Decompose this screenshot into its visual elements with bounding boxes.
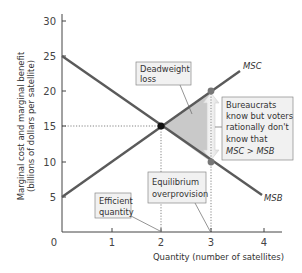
equilibrium-overprovision-callout: Equilibrium overprovision	[148, 172, 208, 203]
svg-text:15: 15	[43, 121, 56, 132]
y-tick-labels: 30 25 20 15 10 5	[43, 16, 56, 203]
msb-label: MSB	[264, 193, 283, 203]
y-ticks	[62, 21, 66, 197]
svg-text:10: 10	[43, 157, 56, 168]
svg-text:(billions of dollars per satel: (billions of dollars per satellite)	[26, 60, 36, 192]
deadweight-loss-area	[161, 91, 211, 162]
svg-text:2: 2	[158, 237, 164, 248]
x-ticks	[112, 228, 264, 232]
svg-text:overprovision: overprovision	[152, 189, 208, 199]
svg-text:Equilibrium: Equilibrium	[152, 177, 199, 187]
x-axis-title: Quantity (number of satellites)	[153, 252, 284, 262]
svg-text:Bureaucrats: Bureaucrats	[226, 100, 276, 110]
msc-point-q3	[208, 88, 215, 95]
svg-text:Marginal cost and marginal ben: Marginal cost and marginal benefit	[16, 51, 26, 200]
efficient-leader	[131, 216, 160, 231]
svg-text:25: 25	[43, 51, 56, 62]
svg-text:20: 20	[43, 86, 56, 97]
svg-text:4: 4	[261, 237, 267, 248]
msc-label: MSC	[243, 61, 262, 71]
svg-text:0: 0	[51, 237, 57, 248]
efficient-quantity-callout: Efficient quantity	[95, 193, 134, 218]
svg-text:rationally don't: rationally don't	[226, 122, 290, 132]
chart-canvas: Marginal cost and marginal benefit (bill…	[0, 0, 302, 273]
svg-text:3: 3	[208, 237, 214, 248]
equilibrium-point	[157, 122, 164, 129]
svg-text:Efficient: Efficient	[99, 196, 133, 206]
svg-text:know but voters: know but voters	[226, 111, 293, 121]
x-tick-labels: 0 1 2 3 4	[51, 237, 267, 248]
svg-text:30: 30	[43, 16, 56, 27]
deadweight-loss-callout: Deadweight loss	[136, 62, 191, 85]
svg-text:loss: loss	[140, 74, 156, 84]
svg-text:MSC > MSB: MSC > MSB	[226, 146, 275, 156]
equilibrium-leader	[195, 203, 210, 231]
svg-text:quantity: quantity	[99, 207, 134, 217]
svg-text:1: 1	[109, 237, 115, 248]
svg-text:know that: know that	[226, 134, 268, 144]
msb-point-q3	[208, 159, 215, 166]
svg-text:Deadweight: Deadweight	[140, 64, 191, 74]
bureaucrats-callout: Bureaucrats know but voters rationally d…	[222, 97, 293, 160]
y-axis-title: Marginal cost and marginal benefit (bill…	[16, 51, 36, 200]
svg-text:5: 5	[50, 192, 56, 203]
